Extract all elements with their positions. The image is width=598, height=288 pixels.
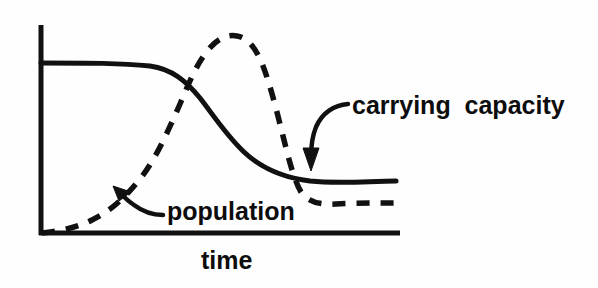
carrying-capacity-arrow-head xyxy=(303,148,319,171)
x-axis-label: time xyxy=(201,248,252,273)
population-arrow xyxy=(113,186,163,215)
carrying-capacity-curve xyxy=(41,63,396,182)
carrying-capacity-label: carrying capacity xyxy=(352,93,565,118)
population-arrow-shaft xyxy=(120,193,163,215)
population-carrying-capacity-figure: carrying capacity population time xyxy=(0,0,598,288)
chart-canvas xyxy=(0,0,598,288)
carrying-capacity-arrow xyxy=(303,104,348,171)
population-label: population xyxy=(167,199,295,224)
